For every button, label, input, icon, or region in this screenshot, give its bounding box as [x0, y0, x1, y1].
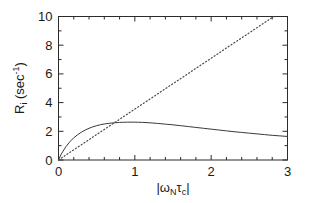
xlabel-omega: ω: [160, 180, 170, 195]
y-tick-label: 4: [45, 95, 52, 110]
ylabel-exponent: -1: [11, 66, 21, 74]
ylabel-sec: sec: [12, 74, 27, 95]
x-tick-label: 1: [131, 164, 138, 179]
x-tick-label: 0: [55, 164, 62, 179]
xlabel-bar-close: |: [186, 180, 189, 195]
y-tick-label: 10: [38, 9, 52, 24]
ylabel-paren-close: ): [12, 62, 27, 66]
y-tick-label: 8: [45, 38, 52, 53]
figure-container: 0123 0246810 |ωNτc| Ri (sec-1): [0, 0, 310, 203]
y-tick-label: 6: [45, 66, 52, 81]
x-tick-label: 3: [284, 164, 291, 179]
x-tick-label: 2: [208, 164, 215, 179]
physics-plot: 0123 0246810 |ωNτc| Ri (sec-1): [0, 0, 310, 203]
y-tick-label: 0: [45, 153, 52, 168]
ylabel-r: R: [12, 105, 27, 114]
y-tick-label: 2: [45, 124, 52, 139]
